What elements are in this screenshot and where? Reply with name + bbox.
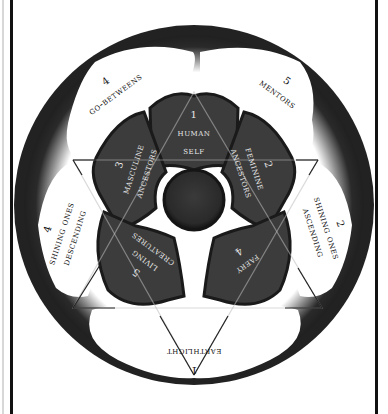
rose-wheel-diagram: 1 human self 2 feminine ancestors 3 masc… — [0, 0, 388, 414]
outer-label: earthlight — [167, 347, 222, 358]
petal-number: 1 — [191, 109, 198, 120]
center-hub — [164, 170, 224, 230]
petal-label: self — [183, 145, 204, 156]
outer-number: 1 — [191, 365, 198, 376]
petal-label: human — [178, 127, 211, 138]
